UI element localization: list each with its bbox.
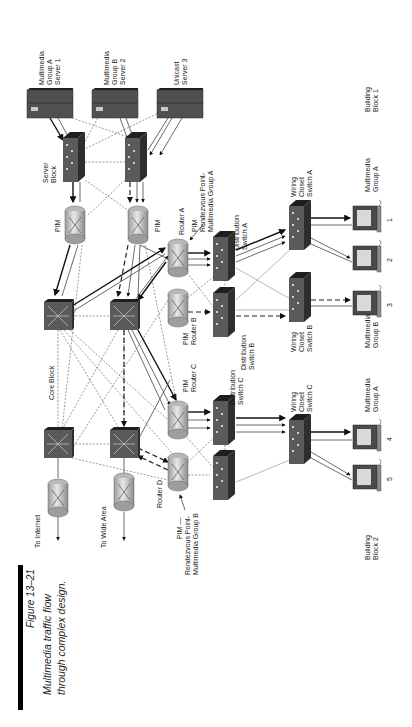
- server-3: [157, 88, 203, 118]
- pc-number-3: 3: [386, 303, 393, 307]
- workstation-4: [353, 419, 381, 451]
- svg-text:Multimedia Group A: Multimedia Group A: [207, 170, 215, 232]
- svg-text:4: 4: [386, 437, 393, 441]
- svg-text:Switch C: Switch C: [306, 384, 313, 412]
- svg-text:Closet: Closet: [298, 177, 305, 197]
- pc-number-5: 5: [386, 477, 393, 481]
- svg-text:Building: Building: [364, 87, 372, 112]
- svg-text:PIM: PIM: [154, 219, 161, 232]
- pim-right-label: PIM: [154, 219, 161, 232]
- core-block-label: Core Block: [48, 365, 55, 400]
- router-d-label: Router D: [156, 480, 163, 508]
- bb1-group-b-label: Multimedia Group B: [364, 314, 380, 348]
- svg-text:3: 3: [386, 303, 393, 307]
- svg-text:Router B: Router B: [190, 317, 197, 345]
- svg-text:1: 1: [386, 218, 393, 222]
- server-block-label: Server Block: [42, 162, 57, 183]
- svg-text:Block: Block: [50, 165, 57, 183]
- svg-text:Wiring: Wiring: [290, 177, 298, 197]
- svg-text:Wiring: Wiring: [290, 332, 298, 352]
- svg-text:PIM: PIM: [182, 379, 189, 392]
- svg-text:Multimedia traffic flow: Multimedia traffic flow: [41, 593, 53, 695]
- server-block-switch-right: [125, 132, 147, 182]
- svg-text:2: 2: [386, 258, 393, 262]
- svg-text:To Wide Area: To Wide Area: [100, 506, 107, 548]
- workstation-5: [353, 459, 381, 491]
- svg-text:Block 1: Block 1: [372, 89, 379, 112]
- svg-text:Multimedia: Multimedia: [103, 51, 110, 85]
- svg-text:PIM: PIM: [191, 219, 198, 232]
- pc-number-2: 2: [386, 258, 393, 262]
- wide-area-router: [114, 473, 134, 511]
- svg-text:Router A: Router A: [178, 207, 185, 235]
- svg-text:Server 1: Server 1: [54, 58, 61, 85]
- building-block-1-label: Building Block 1: [364, 87, 379, 112]
- svg-text:Distribution: Distribution: [229, 370, 236, 405]
- svg-text:Group A: Group A: [46, 59, 54, 85]
- wiring-closet-switch-a: [289, 200, 311, 250]
- svg-text:Server 3: Server 3: [181, 58, 188, 85]
- svg-text:Distribution: Distribution: [233, 215, 240, 250]
- svg-text:Switch A: Switch A: [306, 170, 313, 197]
- svg-text:Router C: Router C: [190, 364, 197, 392]
- router-c-label: PIM Router C: [182, 364, 197, 392]
- svg-text:Rendezvous Point-: Rendezvous Point-: [184, 515, 191, 575]
- svg-text:through complex design.: through complex design.: [55, 581, 67, 695]
- router-b: [168, 289, 188, 327]
- pim-left-label: PIM: [54, 219, 61, 232]
- workstation-2: [353, 240, 381, 272]
- wiring-closet-switch-b: [289, 272, 311, 322]
- svg-text:Figure 13–21: Figure 13–21: [25, 569, 36, 628]
- wiring-a-label: Wiring Closet Switch A: [290, 170, 313, 197]
- pc-number-4: 4: [386, 437, 393, 441]
- svg-text:PIM: PIM: [182, 332, 189, 345]
- caption-text: Multimedia traffic flow through complex …: [41, 581, 67, 695]
- figure-number: Figure 13–21: [25, 569, 36, 628]
- core-switch-3: [44, 427, 74, 458]
- svg-text:Unicast: Unicast: [173, 62, 180, 85]
- distribution-switch-d: [213, 450, 235, 500]
- distribution-switch-b: [213, 287, 235, 337]
- svg-text:Rendezvous Point-: Rendezvous Point-: [199, 172, 206, 232]
- svg-text:Group A: Group A: [372, 166, 380, 192]
- svg-text:Closet: Closet: [298, 392, 305, 412]
- pc-number-1: 1: [386, 218, 393, 222]
- server-2-label: Multimedia Group B Server 2: [103, 51, 126, 85]
- server-1: [27, 88, 73, 118]
- router-a: [168, 239, 188, 277]
- core-switch-2: [110, 299, 140, 330]
- bb1-group-a-label: Multimedia Group A: [364, 158, 380, 192]
- svg-text:Multimedia: Multimedia: [364, 314, 371, 348]
- svg-text:Building: Building: [364, 535, 372, 560]
- distribution-switch-a: [213, 231, 235, 281]
- svg-text:Core Block: Core Block: [48, 365, 55, 400]
- bb2-group-a-label: Multimedia Group A: [364, 378, 380, 412]
- distribution-b-label: Distribution Switch B: [240, 335, 255, 370]
- svg-text:Server: Server: [42, 162, 49, 183]
- server-2: [92, 88, 138, 118]
- wiring-c-label: Wiring Closet Switch C: [290, 384, 313, 412]
- svg-text:Switch B: Switch B: [248, 342, 255, 370]
- svg-text:Distribution: Distribution: [240, 335, 247, 370]
- core-switch-1: [44, 299, 74, 330]
- router-a-rp-label: PIM Rendezvous Point- Multimedia Group A: [191, 170, 215, 232]
- server-1-label: Multimedia Group A Server 1: [38, 51, 61, 85]
- svg-text:Wiring: Wiring: [290, 392, 298, 412]
- svg-text:Router D: Router D: [156, 480, 163, 508]
- svg-text:Switch C: Switch C: [237, 377, 244, 405]
- workstation-1: [353, 200, 381, 232]
- network-diagram: Multimedia Group A Server 1 Multimedia G…: [0, 0, 412, 727]
- svg-text:Multimedia Group B: Multimedia Group B: [192, 513, 200, 575]
- svg-text:Group A: Group A: [372, 386, 380, 412]
- svg-text:Multimedia: Multimedia: [364, 158, 371, 192]
- to-internet-label: To Internet: [34, 515, 41, 548]
- distribution-c-label: Distribution Switch C: [229, 370, 244, 405]
- pim-router-right: [128, 206, 148, 244]
- svg-text:Block 2: Block 2: [372, 537, 379, 560]
- svg-text:Multimedia: Multimedia: [38, 51, 45, 85]
- svg-text:5: 5: [386, 477, 393, 481]
- building-block-2-label: Building Block 2: [364, 535, 379, 560]
- distribution-a-label: Distribution Switch A: [233, 215, 248, 250]
- caption-bar: [18, 565, 23, 710]
- workstation-3: [353, 285, 381, 317]
